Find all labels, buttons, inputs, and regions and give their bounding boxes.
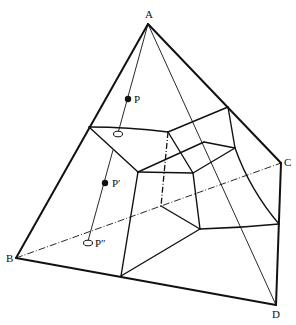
label-A: A [145,8,153,20]
edge-BC-hidden [16,163,281,258]
line-A-P [118,24,148,133]
edge-a4-a5 [138,172,193,173]
labels: A B C D P P′ P″ [6,8,291,320]
point-P [125,96,131,102]
label-P-doubleprime: P″ [95,237,106,249]
label-C: C [284,156,291,168]
edge-a7-c1 [235,148,279,224]
edge-a5-b2 [193,173,200,229]
point-P-doubleprime [84,240,93,246]
edge-CD [276,163,281,305]
point-P-prime [102,180,108,186]
edge-AD [148,24,276,305]
edge-a2-a3 [168,107,228,132]
edge-AB [16,24,148,258]
edge-a2-b1-hidden [161,132,168,206]
edge-a2-a5 [168,132,193,173]
edge-b1-b2 [161,206,200,229]
label-P: P [134,93,140,105]
label-D: D [272,308,280,320]
edge-a6-a7 [204,142,235,148]
tetrahedron-diagram: A B C D P P′ P″ [0,0,296,325]
label-B: B [6,252,13,264]
label-P-prime: P′ [112,177,121,189]
face-top-edge [89,127,168,132]
edge-b2-bd [121,229,200,276]
edge-a4-bd [121,172,138,276]
point-projection-top [114,131,123,137]
edge-a4-a6 [138,142,204,172]
edge-BD [16,258,276,305]
edge-AC [148,24,281,163]
